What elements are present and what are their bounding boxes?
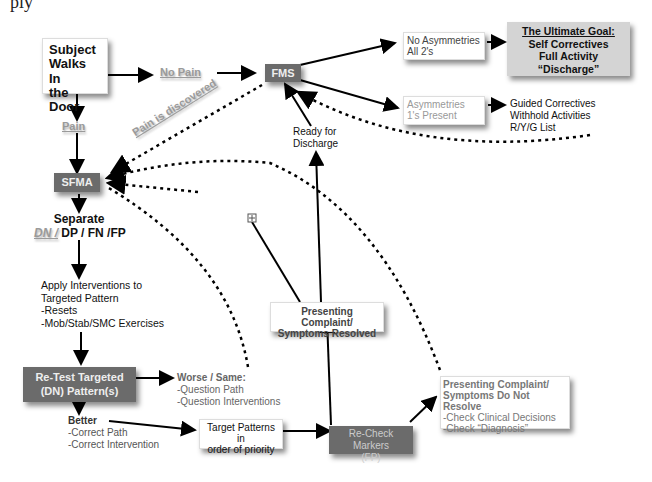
node-separate: Separate DN / DP / FN /FP [34, 212, 124, 241]
label-no-pain: No Pain [160, 66, 201, 79]
node-retest-targeted: Re-Test Targeted (DN) Pattern(s) [23, 367, 136, 402]
node-ready-for-discharge: Ready for Discharge [293, 126, 338, 150]
node-better: Better -Correct Path -Correct Interventi… [68, 415, 159, 451]
node-worse-same: Worse / Same: -Question Path -Question I… [177, 372, 280, 408]
node-subject-walks-in: Subject Walks In the Door [42, 38, 108, 94]
node-ultimate-goal: The Ultimate Goal: Self Correctives Full… [507, 22, 630, 76]
node-symptoms-not-resolve: Presenting Complaint/ Symptoms Do Not Re… [440, 376, 570, 429]
node-no-asymmetries: No Asymmetries All 2's [403, 32, 485, 60]
node-sfma: SFMA [54, 173, 100, 192]
node-asymmetries: Asymmetries 1's Present [403, 96, 485, 125]
label-pain: Pain [62, 120, 85, 133]
node-apply-interventions: Apply Interventions to Targeted Pattern … [41, 279, 164, 329]
flowchart: ply [0, 0, 652, 482]
node-guided-correctives: Guided Correctives Withhold Activities R… [510, 98, 596, 134]
node-recheck-markers: Re-Check Markers (FP) [329, 426, 413, 454]
node-target-patterns: Target Patterns in order of priority [199, 419, 283, 449]
node-fms: FMS [265, 64, 301, 82]
node-symptoms-resolved: Presenting Complaint/ Symptoms Resolved [270, 302, 384, 332]
